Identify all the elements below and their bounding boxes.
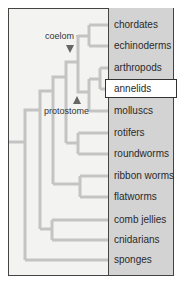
branch-bilateria-node bbox=[53, 77, 66, 184]
taxon-arthropods: arthropods bbox=[114, 62, 162, 74]
taxon-cnidarians: cnidarians bbox=[114, 234, 160, 246]
taxon-rotifers: rotifers bbox=[114, 127, 145, 139]
taxon-chordates: chordates bbox=[114, 19, 158, 31]
coelom-marker-icon bbox=[66, 45, 74, 53]
taxon-flatworms: flatworms bbox=[114, 191, 157, 203]
taxon-roundworms: roundworms bbox=[114, 148, 169, 160]
protostome-marker-icon bbox=[73, 96, 81, 104]
taxon-sponges: sponges bbox=[114, 254, 152, 266]
taxon-molluscs: molluscs bbox=[114, 105, 153, 117]
taxon-ribbon-worms: ribbon worms bbox=[114, 170, 174, 182]
highlighted-taxon-box: annelids bbox=[105, 79, 177, 98]
taxon-comb-jellies: comb jellies bbox=[114, 214, 166, 226]
branch-sponges-node bbox=[25, 110, 40, 260]
coelom-label: coelom bbox=[45, 31, 74, 41]
taxon-echinoderms: echinoderms bbox=[114, 40, 171, 52]
taxon-annelids: annelids bbox=[114, 83, 151, 95]
protostome-label: protostome bbox=[44, 106, 89, 116]
branch-deuterostome-protostome bbox=[78, 36, 89, 92]
